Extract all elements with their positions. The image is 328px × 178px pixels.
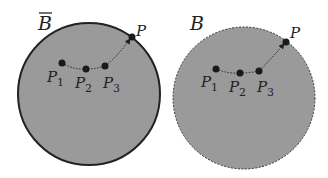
closed-ball-label: B: [37, 12, 52, 34]
label-p: P: [135, 22, 147, 40]
point-p3: [256, 68, 263, 75]
point-p: [283, 39, 290, 46]
ball-diagram: B P1 P2 P3 P B P1 P2 P3 P: [0, 0, 328, 178]
open-ball-label: B: [189, 12, 204, 34]
point-p3: [102, 63, 109, 70]
point-p2: [83, 66, 90, 73]
point-p: [129, 34, 136, 41]
point-p1: [213, 66, 220, 73]
open-ball-panel: B P1 P2 P3 P: [173, 12, 315, 169]
point-p1: [59, 60, 66, 67]
point-p2: [237, 70, 244, 77]
closed-ball-panel: B P1 P2 P3 P: [18, 12, 160, 165]
label-p: P: [289, 24, 301, 42]
